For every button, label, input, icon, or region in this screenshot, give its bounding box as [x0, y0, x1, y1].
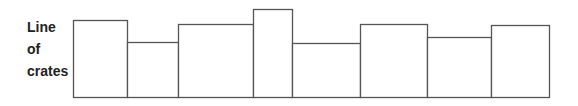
crate-6: [361, 25, 428, 98]
crate-3: [179, 25, 254, 98]
crate-8: [492, 26, 550, 98]
crate-4: [254, 10, 293, 98]
crate-2: [128, 43, 179, 98]
crate-1: [74, 21, 128, 98]
crate-7: [428, 38, 492, 98]
crate-5: [293, 44, 361, 98]
crates-diagram: [0, 0, 578, 106]
